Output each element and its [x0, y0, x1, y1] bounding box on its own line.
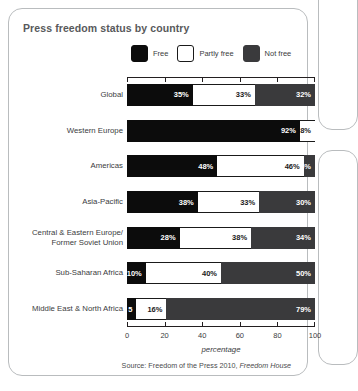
legend-swatch-not-free: [243, 45, 260, 62]
bar-value-label: 10%: [127, 269, 146, 278]
axis-top-line: [127, 77, 315, 78]
adjacent-panel-peek-top: [318, 0, 358, 130]
x-tick-top: [277, 77, 278, 82]
bar-category-label: Americas: [15, 161, 123, 171]
bar-category-label: Global: [15, 90, 123, 100]
x-tick-bottom: [314, 322, 315, 327]
bar-segment-free: 10%: [127, 262, 146, 284]
bar-segment-notfree: 34%: [251, 227, 315, 249]
x-tick-bottom: [202, 322, 203, 327]
plot-area: Global35%33%32%Western Europe92%8%Americ…: [127, 77, 315, 327]
bar-row: Asia-Pacific38%33%30%: [127, 191, 315, 213]
bar-segment-partly: 16%: [136, 298, 166, 320]
x-tick-top: [127, 77, 128, 82]
legend-label: Free: [153, 49, 168, 58]
x-tick-label: 60: [236, 331, 244, 340]
x-tick-top: [314, 77, 315, 82]
axis-bottom-line: [127, 326, 315, 327]
bar-value-label: 33%: [240, 198, 259, 207]
bar-category-label: Sub-Saharan Africa: [15, 268, 123, 278]
x-tick-bottom: [240, 322, 241, 327]
bar-segment-notfree: 6%: [304, 155, 315, 177]
bar-segment-notfree: 30%: [259, 191, 315, 213]
x-tick-label: 0: [125, 331, 129, 340]
legend-swatch-partly-free: [177, 45, 194, 62]
bar-segment-partly: 40%: [146, 262, 221, 284]
bar-value-label: 8%: [300, 126, 315, 135]
x-tick-bottom: [165, 322, 166, 327]
bar-segment-partly: 8%: [300, 120, 315, 142]
bar-value-label: 16%: [147, 305, 166, 314]
bar-segment-partly: 38%: [180, 227, 251, 249]
bar-value-label: 79%: [296, 305, 315, 314]
bar-category-label: Middle East & North Africa: [15, 304, 123, 314]
bar-category-label: Asia-Pacific: [15, 197, 123, 207]
bar-category-label: Western Europe: [15, 126, 123, 136]
bar-row: Global35%33%32%: [127, 84, 315, 106]
bar-row: Central & Eastern Europe/Former Soviet U…: [127, 227, 315, 249]
bar-value-label: 48%: [198, 162, 217, 171]
x-tick-bottom: [127, 322, 128, 327]
x-tick-label: 20: [160, 331, 168, 340]
x-tick-top: [165, 77, 166, 82]
bar-segment-notfree: 32%: [255, 84, 315, 106]
bar-value-label: 40%: [202, 269, 221, 278]
bar-segment-free: 48%: [127, 155, 217, 177]
x-tick-label: 40: [198, 331, 206, 340]
bar-segment-notfree: 50%: [221, 262, 315, 284]
bar-segment-free: 38%: [127, 191, 198, 213]
chart-panel: Press freedom status by country FreePart…: [8, 8, 308, 376]
legend-item-free: Free: [131, 45, 177, 62]
legend-label: Not free: [265, 49, 292, 58]
adjacent-panel-peek-bottom: [318, 150, 358, 365]
bar-value-label: 6%: [304, 162, 315, 171]
bar-row: Sub-Saharan Africa10%40%50%: [127, 262, 315, 284]
x-tick-bottom: [277, 322, 278, 327]
bar-value-label: 33%: [236, 90, 255, 99]
bar-segment-notfree: 79%: [166, 298, 315, 320]
bar-value-label: 92%: [281, 126, 300, 135]
bar-value-label: 34%: [296, 233, 315, 242]
page-title: Press freedom status by country: [23, 22, 190, 34]
legend-item-partly-free: Partly free: [177, 45, 242, 62]
bar-value-label: 50%: [296, 269, 315, 278]
bar-segment-partly: 33%: [193, 84, 255, 106]
bar-value-label: 5: [128, 305, 136, 314]
bar-value-label: 30%: [296, 198, 315, 207]
bar-value-label: 35%: [174, 90, 193, 99]
legend-item-not-free: Not free: [243, 45, 301, 62]
bar-row: Western Europe92%8%: [127, 120, 315, 142]
bar-value-label: 38%: [179, 198, 198, 207]
x-axis-title: percentage: [127, 345, 315, 354]
bar-row: Americas48%46%6%: [127, 155, 315, 177]
legend-swatch-free: [131, 45, 148, 62]
bar-segment-free: 35%: [127, 84, 193, 106]
bar-row: Middle East & North Africa516%79%: [127, 298, 315, 320]
bar-segment-free: 92%: [127, 120, 300, 142]
bar-segment-partly: 46%: [217, 155, 303, 177]
bar-value-label: 38%: [232, 233, 251, 242]
bar-segment-free: 28%: [127, 227, 180, 249]
bar-value-label: 46%: [285, 162, 304, 171]
bar-segment-partly: 33%: [198, 191, 259, 213]
bar-category-label: Central & Eastern Europe/Former Soviet U…: [15, 228, 123, 248]
x-tick-label: 100: [309, 331, 322, 340]
x-tick-label: 80: [273, 331, 281, 340]
bar-value-label: 28%: [161, 233, 180, 242]
bar-segment-free: 5: [127, 298, 136, 320]
source-note: Source: Freedom of the Press 2010, Freed…: [23, 361, 291, 370]
bar-value-label: 32%: [296, 90, 315, 99]
legend-label: Partly free: [199, 49, 233, 58]
chart-legend: FreePartly freeNot free: [131, 45, 300, 62]
x-tick-top: [202, 77, 203, 82]
x-tick-top: [240, 77, 241, 82]
